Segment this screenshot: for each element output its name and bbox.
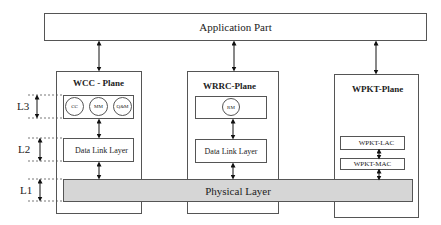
application-part-box: Application Part: [44, 13, 427, 41]
mm-label: MM: [94, 104, 103, 109]
wrrc-data-link-label: Data Link Layer: [205, 147, 258, 156]
wcc-plane-title: WCC - Plane: [73, 78, 124, 88]
layer-l3-label: L3: [17, 100, 29, 112]
layer-l1-label: L1: [20, 184, 32, 196]
wcc-data-link-label: Data Link Layer: [75, 146, 128, 155]
wpkt-mac-label: WPKT-MAC: [354, 160, 391, 168]
om-circle: Q&M: [113, 97, 132, 116]
wpkt-lac-label: WPKT-LAC: [359, 139, 395, 147]
rm-circle: RM: [222, 98, 240, 116]
cc-circle: CC: [65, 97, 84, 116]
wcc-data-link-layer: Data Link Layer: [63, 138, 134, 162]
cc-label: CC: [71, 104, 78, 109]
wpkt-plane-title: WPKT-Plane: [352, 84, 403, 94]
layer-l2-label: L2: [18, 143, 30, 155]
physical-layer-label: Physical Layer: [205, 185, 271, 197]
mm-circle: MM: [89, 97, 108, 116]
om-label: Q&M: [117, 104, 129, 109]
physical-layer-bar: Physical Layer: [63, 179, 413, 202]
wpkt-mac-box: WPKT-MAC: [340, 158, 405, 170]
application-part-label: Application Part: [199, 21, 271, 33]
rm-label: RM: [227, 105, 235, 110]
wpkt-lac-box: WPKT-LAC: [340, 136, 405, 150]
layer-bracket-arrows: [37, 97, 40, 199]
wrrc-plane-title: WRRC-Plane: [203, 81, 256, 91]
wrrc-data-link-layer: Data Link Layer: [195, 139, 267, 163]
